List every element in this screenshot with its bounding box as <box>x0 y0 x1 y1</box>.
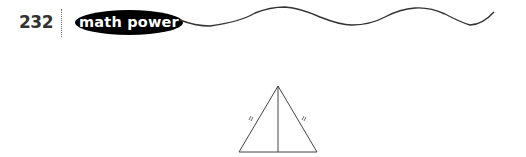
tick-mark-right <box>302 116 306 121</box>
triangle-figure <box>239 86 317 152</box>
wave-decoration <box>180 7 494 26</box>
tick-mark-left <box>249 116 253 121</box>
page-decorations <box>0 0 526 157</box>
